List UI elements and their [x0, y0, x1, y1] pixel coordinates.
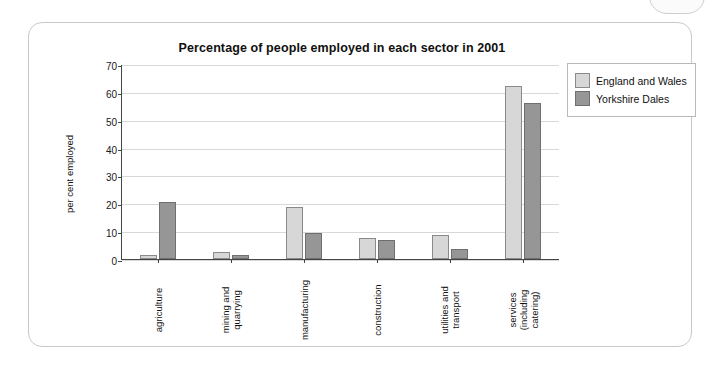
x-tick-label: manufacturing — [298, 267, 309, 353]
x-tick-mark — [304, 259, 305, 263]
legend-swatch-icon — [575, 91, 590, 106]
x-tick-mark — [231, 259, 232, 263]
y-tick-label: 70 — [106, 61, 117, 72]
legend-label: Yorkshire Dales — [596, 93, 669, 105]
x-tick-mark — [377, 259, 378, 263]
chart-title: Percentage of people employed in each se… — [107, 41, 577, 55]
bar-group — [340, 65, 413, 259]
bar-group — [195, 65, 268, 259]
bar-group — [413, 65, 486, 259]
x-tick-label: mining and quarrying — [220, 267, 242, 353]
x-tick-label: services (including catering) — [506, 267, 539, 353]
bar — [524, 103, 541, 259]
y-tick-label: 20 — [106, 200, 117, 211]
decorative-corner-shape — [649, 0, 705, 14]
bar — [451, 249, 468, 259]
chart-legend: England and Wales Yorkshire Dales — [567, 63, 696, 117]
y-tick-label: 40 — [106, 144, 117, 155]
bar-group — [268, 65, 341, 259]
legend-item-1[interactable]: Yorkshire Dales — [575, 91, 687, 106]
screenshot-root: Percentage of people employed in each se… — [0, 0, 723, 366]
bar — [140, 255, 157, 259]
y-tick-label: 30 — [106, 172, 117, 183]
bar — [432, 235, 449, 259]
legend-swatch-icon — [575, 73, 590, 88]
x-tick-mark — [523, 259, 524, 263]
y-axis-title: per cent employed — [64, 135, 75, 213]
x-tick-mark — [158, 259, 159, 263]
bar — [232, 255, 249, 259]
y-tick-label: 10 — [106, 228, 117, 239]
y-tick-label: 50 — [106, 116, 117, 127]
legend-item-0[interactable]: England and Wales — [575, 73, 687, 88]
bar — [159, 202, 176, 259]
page-bottom-strip — [0, 358, 723, 366]
chart-card: Percentage of people employed in each se… — [28, 22, 692, 347]
legend-label: England and Wales — [596, 75, 687, 87]
bar-series-container — [122, 65, 559, 259]
y-tick-label: 0 — [111, 256, 117, 267]
x-tick-label: construction — [371, 267, 382, 353]
bar — [286, 207, 303, 259]
bar — [359, 238, 376, 259]
bar — [378, 240, 395, 260]
plot-area: per cent employed 010203040506070 agricu… — [89, 65, 559, 283]
y-tick-label: 60 — [106, 88, 117, 99]
plot-canvas: 010203040506070 — [121, 65, 559, 260]
bar — [213, 252, 230, 259]
bar-group — [486, 65, 559, 259]
x-tick-label: utilities and transport — [439, 267, 461, 353]
gridline: 0 — [122, 260, 559, 261]
x-tick-mark — [450, 259, 451, 263]
x-tick-label: agriculture — [152, 267, 163, 353]
bar — [305, 233, 322, 259]
y-tick-mark — [118, 261, 122, 262]
bar-group — [122, 65, 195, 259]
bar — [505, 86, 522, 259]
